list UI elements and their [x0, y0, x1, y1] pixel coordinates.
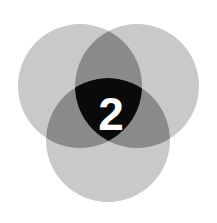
venn-diagram-figure: 2: [0, 0, 217, 223]
center-count-label: 2: [98, 88, 124, 140]
venn-diagram-canvas: 2: [0, 0, 217, 223]
